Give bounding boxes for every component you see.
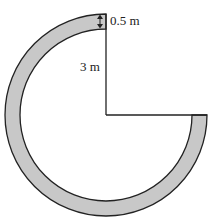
ring-sector-diagram: 0.5 m 3 m	[0, 0, 213, 221]
radius-label: 3 m	[80, 59, 100, 74]
width-label: 0.5 m	[110, 13, 140, 28]
